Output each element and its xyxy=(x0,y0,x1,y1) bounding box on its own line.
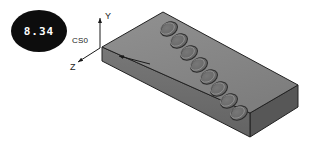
coordinate-system-name-label: CS0 xyxy=(72,36,89,45)
z-axis-line xyxy=(78,48,100,62)
perforated-plate[interactable] xyxy=(102,12,298,137)
value-badge[interactable]: 8.34 xyxy=(11,10,67,52)
y-axis-label: Y xyxy=(105,11,111,21)
z-axis-label: Z xyxy=(70,62,76,72)
badge-value-label: 8.34 xyxy=(24,25,55,38)
cad-viewport[interactable]: 8.34 Y Z CS0 xyxy=(0,0,315,156)
figure-canvas: 8.34 Y Z CS0 xyxy=(0,0,315,156)
